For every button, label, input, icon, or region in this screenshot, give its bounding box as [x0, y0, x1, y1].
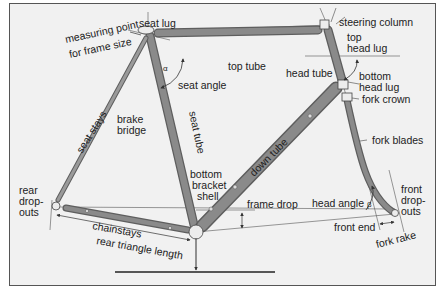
- bottom-bracket-shell: [189, 225, 203, 239]
- label-beta: β: [367, 200, 372, 209]
- diagram-canvas: seat lug measuring point for frame size …: [0, 0, 440, 292]
- label-fork-rake: fork rake: [375, 228, 418, 250]
- front-dropout: [392, 210, 399, 217]
- label-bottom-head-lug-2: head lug: [359, 81, 399, 93]
- label-fork-crown: fork crown: [362, 93, 411, 105]
- label-brake-bridge-2: bridge: [117, 124, 146, 136]
- label-top-head-lug-2: head lug: [347, 42, 387, 54]
- top-head-lug: [320, 20, 329, 29]
- fork-crown: [342, 93, 352, 101]
- bicycle-frame-diagram: seat lug measuring point for frame size …: [0, 0, 440, 292]
- head-angle-arc: [344, 60, 357, 80]
- bottom-head-lug: [338, 80, 348, 89]
- label-steering-column: steering column: [339, 16, 413, 28]
- label-head-angle: head angle: [312, 197, 364, 209]
- label-fork-blades: fork blades: [372, 134, 423, 146]
- fork-rake-dimension: [380, 222, 394, 224]
- fork-blades: [347, 100, 393, 212]
- rear-dropout: [52, 202, 60, 210]
- label-rear-dropouts-3: outs: [19, 206, 39, 218]
- label-down-tube: down tube: [247, 136, 290, 179]
- label-head-tube: head tube: [286, 67, 333, 79]
- label-seat-stays: seat stays: [74, 109, 109, 155]
- label-alpha: α: [163, 64, 168, 73]
- label-top-tube: top tube: [228, 60, 266, 72]
- rear-dropout-axis: [50, 200, 52, 230]
- label-front-dropouts-3: outs: [401, 205, 421, 217]
- label-bottom-bracket-3: shell: [197, 190, 219, 202]
- label-seat-tube: seat tube: [187, 110, 208, 155]
- label-front-end: front end: [334, 221, 376, 233]
- label-seat-lug: seat lug: [139, 17, 176, 29]
- label-frame-drop: frame drop: [247, 198, 298, 210]
- label-seat-angle: seat angle: [178, 79, 227, 91]
